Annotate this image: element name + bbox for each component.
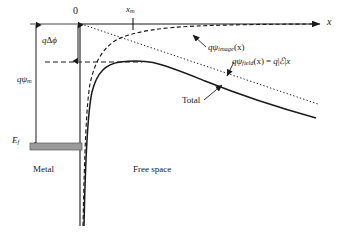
schottky-barrier-figure: 0 xm x qΔϕ qψm Ef Metal Free space qψima…	[0, 0, 342, 233]
origin-label: 0	[73, 6, 78, 16]
image-curve	[83, 24, 313, 226]
fermi-level-bar-group	[30, 143, 82, 150]
q-delta-phi-label: qΔϕ	[42, 36, 57, 45]
axes-group	[80, 18, 320, 226]
curves-group	[81, 24, 318, 226]
field-argument: (x)	[254, 56, 265, 66]
image-term-label: qψimage(x)	[208, 43, 244, 53]
total-curve-label: Total	[182, 96, 200, 105]
fermi-level-label: Ef	[12, 136, 19, 146]
equals-sign: =	[266, 56, 271, 66]
total-curve	[84, 61, 316, 226]
xm-tick-label: xm	[126, 5, 135, 15]
phi-symbol: ϕ	[52, 35, 57, 45]
q-psi-m-label: qψm	[17, 75, 32, 85]
image-label-leader	[193, 35, 206, 47]
x-axis-label: x	[327, 17, 331, 27]
m-subscript: m	[27, 77, 32, 84]
total-label-leader	[204, 85, 222, 100]
xm-subscript: m	[130, 7, 135, 14]
free-space-region-label: Free space	[133, 165, 171, 174]
image-subscript: image	[218, 45, 234, 52]
metal-region-label: Metal	[33, 165, 54, 174]
image-argument: (x)	[234, 42, 245, 52]
fermi-level-bar	[30, 143, 82, 150]
field-subscript: field	[242, 59, 254, 66]
rhs-x-symbol: x	[286, 56, 290, 66]
f-subscript: f	[18, 138, 20, 145]
field-term-label: qψfield(x)=q|ℰ|x	[232, 57, 290, 67]
